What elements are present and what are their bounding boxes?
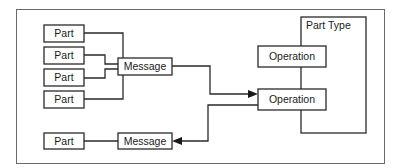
input-part-4: Part (44, 91, 84, 108)
input-part-1: Part (44, 25, 84, 42)
input-message-label: Message (124, 60, 167, 72)
operation-2-label: Operation (269, 93, 315, 105)
operation-1: Operation (258, 46, 326, 67)
input-part-3: Part (44, 69, 84, 86)
connector-part2-message (84, 55, 118, 64)
arrow-right-icon (248, 90, 258, 98)
operation-2: Operation (258, 89, 326, 110)
input-part-4-label: Part (54, 93, 73, 105)
input-part-2: Part (44, 47, 84, 64)
part-type-box (301, 17, 366, 133)
connector-part3-message (84, 69, 118, 78)
output-message: Message (118, 133, 172, 149)
connector-message-operation (172, 66, 250, 94)
input-part-3-label: Part (54, 71, 73, 83)
diagram-canvas: Part Type Part Part Part Part Message Op… (0, 0, 401, 168)
input-part-1-label: Part (54, 27, 73, 39)
output-part-label: Part (54, 135, 73, 147)
operation-1-label: Operation (269, 50, 315, 62)
input-message: Message (118, 58, 172, 75)
output-part: Part (44, 133, 84, 149)
connector-part1-message (84, 33, 123, 58)
connector-operation-message (180, 105, 258, 141)
arrow-left-icon (172, 137, 182, 145)
part-type-label: Part Type (306, 19, 351, 31)
input-part-2-label: Part (54, 49, 73, 61)
output-message-label: Message (124, 135, 167, 147)
